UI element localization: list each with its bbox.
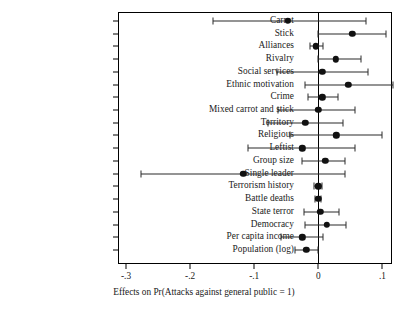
category-label: Group size <box>253 156 294 165</box>
confidence-interval-cap <box>365 18 366 25</box>
category-tick <box>113 21 118 22</box>
confidence-interval-cap <box>382 132 383 139</box>
category-label: Religious <box>258 131 294 140</box>
confidence-interval-cap <box>323 43 324 50</box>
confidence-interval-cap <box>268 119 269 126</box>
category-tick <box>113 33 118 34</box>
confidence-interval-cap <box>339 208 340 215</box>
confidence-interval-cap <box>308 94 309 101</box>
confidence-interval-cap <box>295 246 296 253</box>
category-label: Ethnic motivation <box>226 80 294 89</box>
category-tick <box>113 173 118 174</box>
x-axis-tick <box>318 264 319 269</box>
category-tick <box>113 110 118 111</box>
confidence-interval-cap <box>360 56 361 63</box>
confidence-interval-cap <box>248 145 249 152</box>
category-tick <box>113 249 118 250</box>
category-tick <box>113 59 118 60</box>
category-tick <box>113 71 118 72</box>
category-label: Democracy <box>251 220 294 229</box>
confidence-interval-cap <box>321 196 322 203</box>
confidence-interval-cap <box>368 68 369 75</box>
category-tick <box>113 46 118 47</box>
confidence-interval-cap <box>318 56 319 63</box>
category-tick <box>113 122 118 123</box>
confidence-interval-cap <box>277 68 278 75</box>
x-axis-tick-label: -.2 <box>185 271 195 281</box>
zero-reference-line <box>318 12 319 264</box>
confidence-interval-cap <box>345 157 346 164</box>
x-axis-tick-label: -.3 <box>121 271 131 281</box>
confidence-interval-cap <box>392 81 393 88</box>
confidence-interval-cap <box>346 221 347 228</box>
x-axis-tick-label: .1 <box>379 271 386 281</box>
confidence-interval-cap <box>290 132 291 139</box>
confidence-interval-cap <box>302 157 303 164</box>
confidence-interval-cap <box>305 221 306 228</box>
category-tick <box>113 160 118 161</box>
category-label: Stick <box>275 29 294 38</box>
confidence-interval-cap <box>140 170 141 177</box>
category-tick <box>113 135 118 136</box>
x-axis-tick <box>190 264 191 269</box>
x-axis-tick-label: -.1 <box>249 271 259 281</box>
coefficient-plot: CarrotStickAlliancesRivalrySocial servic… <box>0 0 408 311</box>
confidence-interval-cap <box>213 18 214 25</box>
confidence-interval-cap <box>337 94 338 101</box>
x-axis-tick <box>254 264 255 269</box>
confidence-interval-cap <box>305 81 306 88</box>
x-axis-tick <box>382 264 383 269</box>
category-label: Rivalry <box>266 55 294 64</box>
category-tick <box>113 186 118 187</box>
confidence-interval-cap <box>385 30 386 37</box>
confidence-interval-cap <box>323 234 324 241</box>
confidence-interval-cap <box>345 170 346 177</box>
confidence-interval-cap <box>318 246 319 253</box>
confidence-interval-cap <box>309 43 310 50</box>
category-label: Crime <box>271 93 295 102</box>
category-tick <box>113 199 118 200</box>
category-tick <box>113 97 118 98</box>
confidence-interval-line <box>318 59 360 60</box>
category-tick <box>113 211 118 212</box>
confidence-interval-cap <box>281 234 282 241</box>
confidence-interval-cap <box>303 208 304 215</box>
confidence-interval-cap <box>342 119 343 126</box>
confidence-interval-cap <box>355 107 356 114</box>
category-label: Battle deaths <box>245 194 294 203</box>
category-label: State terror <box>252 207 294 216</box>
category-tick <box>113 224 118 225</box>
category-label: Population (log) <box>233 245 294 254</box>
category-tick <box>113 84 118 85</box>
category-tick <box>113 148 118 149</box>
confidence-interval-cap <box>277 107 278 114</box>
category-tick <box>113 237 118 238</box>
x-axis-tick <box>126 264 127 269</box>
confidence-interval-cap <box>318 30 319 37</box>
confidence-interval-cap <box>355 145 356 152</box>
x-axis-title: Effects on Pr(Attacks against general pu… <box>0 287 408 297</box>
x-axis-tick-label: 0 <box>316 271 321 281</box>
category-label: Alliances <box>258 42 294 51</box>
confidence-interval-cap <box>322 183 323 190</box>
category-label: Terrorism history <box>228 182 294 191</box>
